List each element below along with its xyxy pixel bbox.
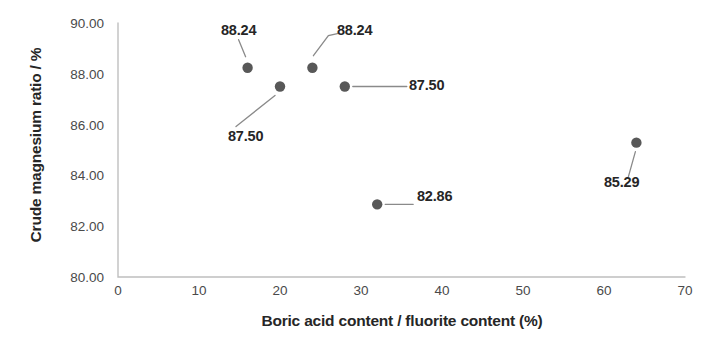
x-axis-tick-label: 60 — [596, 283, 611, 298]
y-axis-tick-label: 80.00 — [48, 270, 104, 285]
label-leader-line — [313, 34, 337, 56]
label-leader-line — [628, 152, 635, 177]
data-point-marker — [307, 63, 317, 73]
x-axis-tick-label: 50 — [515, 283, 530, 298]
axis-spine — [118, 23, 685, 277]
data-point-marker — [372, 199, 382, 209]
data-point-value-label: 87.50 — [228, 128, 263, 144]
x-axis-tick-label: 0 — [114, 283, 122, 298]
data-point-value-label: 88.24 — [337, 22, 372, 38]
y-axis-tick-label: 88.00 — [48, 66, 104, 81]
data-point-value-label: 87.50 — [409, 77, 444, 93]
data-point-marker — [340, 81, 350, 91]
x-axis-tick-label: 70 — [677, 283, 692, 298]
x-axis-tick-label: 10 — [191, 283, 206, 298]
y-axis-tick-label: 82.00 — [48, 219, 104, 234]
x-axis-tick-label: 40 — [434, 283, 449, 298]
label-leader-line — [239, 40, 246, 57]
x-axis-title: Boric acid content / fluorite content (%… — [118, 312, 686, 330]
label-leader-line — [236, 96, 275, 127]
label-leader-lines — [236, 34, 635, 205]
data-point-marker — [631, 137, 641, 147]
y-axis-tick-label: 86.00 — [48, 117, 104, 132]
x-axis-tick-label: 20 — [272, 283, 287, 298]
data-point-value-label: 82.86 — [417, 188, 452, 204]
axis-lines — [118, 23, 685, 277]
x-axis-tick-label: 30 — [353, 283, 368, 298]
y-axis-tick-label: 90.00 — [48, 16, 104, 31]
data-point-marker — [242, 63, 252, 73]
y-axis-tick-label: 84.00 — [48, 168, 104, 183]
data-point-value-label: 85.29 — [604, 174, 639, 190]
scatter-chart: Crude magnesium ratio / % 80.0082.0084.0… — [0, 0, 722, 350]
data-point-value-label: 88.24 — [221, 22, 256, 38]
y-axis-tick-labels: 80.0082.0084.0086.0088.0090.00 — [40, 0, 104, 350]
data-point-marker — [275, 81, 285, 91]
